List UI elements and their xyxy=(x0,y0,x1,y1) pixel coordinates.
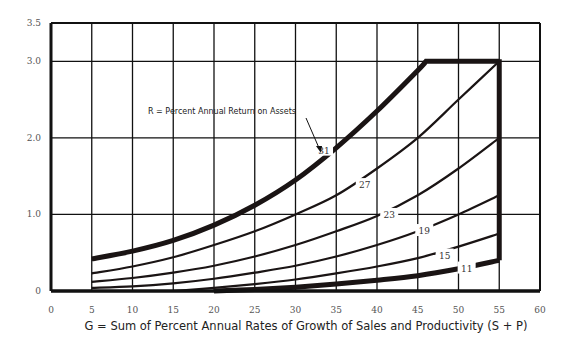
x-tick-label: 55 xyxy=(494,305,506,315)
x-tick-label: 25 xyxy=(249,305,261,315)
x-tick-label: 50 xyxy=(453,305,465,315)
y-tick-label: 3.5 xyxy=(27,18,42,28)
x-tick-label: 15 xyxy=(168,305,180,315)
x-tick-label: 10 xyxy=(127,305,139,315)
x-tick-label: 5 xyxy=(89,305,95,315)
series-label-19: 19 xyxy=(419,226,431,236)
series-label-11: 11 xyxy=(461,264,472,274)
series-label-15: 15 xyxy=(439,251,451,261)
y-tick-label: 0 xyxy=(35,286,41,296)
x-tick-label: 45 xyxy=(412,305,424,315)
x-tick-label: 0 xyxy=(48,305,54,315)
series-line-11 xyxy=(214,260,499,291)
y-tick-label: 3.0 xyxy=(27,56,42,66)
x-tick-label: 40 xyxy=(371,305,383,315)
y-axis-ticks: 01.02.03.03.5 xyxy=(27,18,42,296)
annotation-arrow-icon xyxy=(306,118,322,153)
series-label-27: 27 xyxy=(359,180,371,190)
chart: 051015202530354045505560 01.02.03.03.5 3… xyxy=(0,0,566,346)
y-tick-label: 1.0 xyxy=(27,209,42,219)
series-label-23: 23 xyxy=(383,210,395,220)
x-tick-label: 30 xyxy=(290,305,302,315)
x-tick-label: 60 xyxy=(534,305,546,315)
y-tick-label: 2.0 xyxy=(27,133,42,143)
x-tick-label: 35 xyxy=(331,305,343,315)
annotation-text: R = Percent Annual Return on Assets xyxy=(148,107,296,116)
x-tick-label: 20 xyxy=(208,305,220,315)
curve-labels: 312723191511 xyxy=(315,144,476,274)
x-axis-label: G = Sum of Percent Annual Rates of Growt… xyxy=(85,319,528,333)
x-axis-ticks: 051015202530354045505560 xyxy=(48,305,546,315)
